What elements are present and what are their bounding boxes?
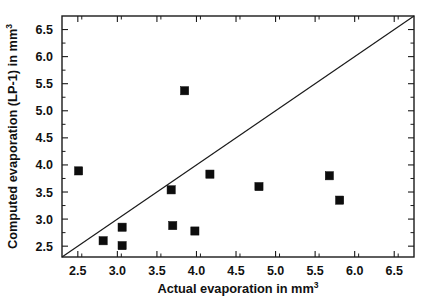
- y-axis-title-text: Computed evaporation (LP-1) in mm3: [4, 24, 20, 249]
- data-point: [118, 242, 126, 250]
- data-point: [169, 221, 177, 229]
- y-tick-label: 6.0: [36, 50, 53, 64]
- data-point: [255, 182, 263, 190]
- x-axis-title-text: Actual evaporation in mm3: [157, 280, 318, 296]
- data-point: [325, 172, 333, 180]
- data-point: [191, 227, 199, 235]
- x-tick-label: 2.5: [69, 264, 86, 278]
- y-axis-title: Computed evaporation (LP-1) in mm3: [4, 24, 20, 249]
- y-tick-label: 4.5: [36, 131, 53, 145]
- x-tick-label: 6.0: [346, 264, 363, 278]
- x-axis-title: Actual evaporation in mm3: [157, 280, 318, 296]
- x-tick-label: 3.0: [109, 264, 126, 278]
- chart-canvas: 2.53.03.54.04.55.05.56.06.5 2.53.03.54.0…: [0, 0, 429, 303]
- y-tick-label: 5.0: [36, 104, 53, 118]
- y-tick-label: 4.0: [36, 158, 53, 172]
- x-tick-label: 3.5: [148, 264, 165, 278]
- x-axis-tick-labels: 2.53.03.54.04.55.05.56.06.5: [69, 264, 403, 278]
- data-point: [181, 87, 189, 95]
- x-tick-label: 4.0: [188, 264, 205, 278]
- y-tick-label: 3.0: [36, 213, 53, 227]
- x-tick-label: 6.5: [386, 264, 403, 278]
- data-point: [206, 170, 214, 178]
- data-point: [118, 223, 126, 231]
- x-tick-label: 5.0: [267, 264, 284, 278]
- y-tick-label: 5.5: [36, 77, 53, 91]
- scatter-plot-figure: 2.53.03.54.04.55.05.56.06.5 2.53.03.54.0…: [0, 0, 429, 303]
- x-tick-label: 4.5: [227, 264, 244, 278]
- data-point: [167, 186, 175, 194]
- y-tick-label: 3.5: [36, 186, 53, 200]
- y-tick-label: 6.5: [36, 23, 53, 37]
- data-point: [99, 237, 107, 245]
- data-point: [336, 196, 344, 204]
- data-point: [75, 167, 83, 175]
- x-tick-label: 5.5: [306, 264, 323, 278]
- y-axis-tick-labels: 2.53.03.54.04.55.05.56.06.5: [36, 23, 53, 254]
- y-tick-label: 2.5: [36, 240, 53, 254]
